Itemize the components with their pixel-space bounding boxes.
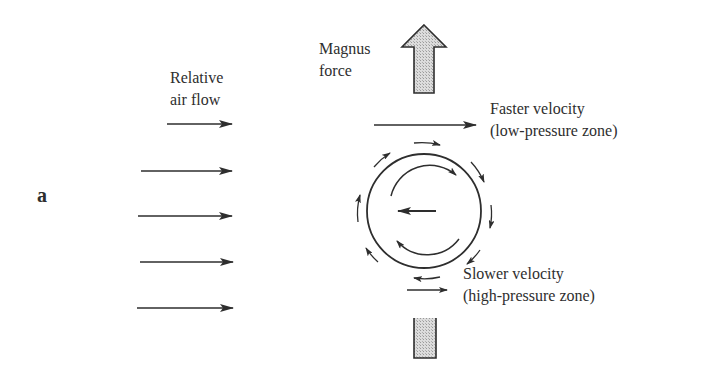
air-flow-arrows [137,124,233,308]
faster-velocity-label: Faster velocity (low-pressure zone) [490,98,618,142]
magnus-force-label: Magnus force [319,38,371,82]
relative-air-flow-line-2: air flow [170,89,223,111]
magnus-force-line-2: force [319,60,371,82]
magnus-force-line-1: Magnus [319,38,371,60]
faster-velocity-line-2: (low-pressure zone) [490,120,618,142]
relative-air-flow-label: Relative air flow [170,67,223,111]
slower-velocity-line-1: Slower velocity [463,263,595,285]
relative-air-flow-line-1: Relative [170,67,223,89]
panel-label: a [37,184,47,207]
magnus-force-arrow-icon [402,25,446,93]
lower-force-shaft [414,318,436,358]
faster-velocity-line-1: Faster velocity [490,98,618,120]
slower-velocity-line-2: (high-pressure zone) [463,285,595,307]
slower-velocity-label: Slower velocity (high-pressure zone) [463,263,595,307]
